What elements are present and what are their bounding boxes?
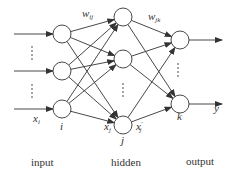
hidden-layer-caption: hidden bbox=[111, 156, 141, 168]
weight-jk-edge bbox=[131, 20, 171, 36]
output-ellipsis bbox=[177, 63, 179, 77]
hidden-input-label: xj bbox=[103, 120, 111, 134]
weight-ij-edge bbox=[67, 41, 118, 117]
output-layer-caption: output bbox=[186, 155, 214, 167]
input-signal-label: xi bbox=[32, 112, 40, 126]
input-ellipsis-lower bbox=[31, 84, 33, 98]
node-j-label: j bbox=[119, 134, 124, 146]
neural-network-diagram: wij wjk xi i xj j x′j k y input hidden o… bbox=[0, 0, 236, 177]
weight-jk-label: wjk bbox=[148, 10, 161, 24]
hidden-output-label: x′j bbox=[135, 120, 143, 134]
output-node bbox=[171, 31, 189, 49]
hidden-node bbox=[114, 8, 132, 26]
weight-ij-edge bbox=[71, 19, 115, 31]
hidden-node bbox=[114, 116, 132, 134]
node-i-label: i bbox=[60, 120, 63, 132]
weight-ij-label: wij bbox=[82, 7, 93, 21]
hidden-node bbox=[114, 50, 132, 68]
input-node bbox=[53, 100, 71, 118]
output-signal-label: y bbox=[213, 102, 219, 114]
input-node bbox=[53, 62, 71, 80]
weight-jk-edge bbox=[130, 65, 173, 99]
weight-ij-edge bbox=[71, 61, 114, 70]
weight-jk-edge bbox=[132, 43, 172, 56]
weight-ij-edge bbox=[67, 25, 118, 102]
input-layer-caption: input bbox=[31, 156, 54, 168]
weight-jk-edge bbox=[128, 47, 175, 117]
hidden-ellipsis bbox=[122, 83, 124, 97]
input-ellipsis-upper bbox=[31, 46, 33, 60]
input-node bbox=[53, 25, 71, 43]
connections bbox=[14, 19, 222, 122]
weight-ij-edge bbox=[69, 23, 117, 65]
nodes bbox=[53, 8, 189, 134]
